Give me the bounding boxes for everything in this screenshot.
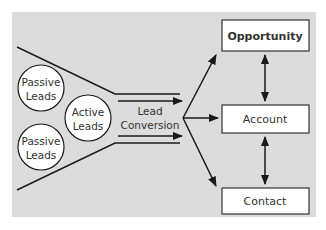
lead-node-active: Active Leads [65, 95, 111, 141]
entity-account: Account [222, 105, 309, 133]
lead-label-line2: Leads [26, 90, 57, 102]
lead-conversion-diagram: Passive Leads Passive Leads Active Leads… [0, 0, 326, 230]
lead-label-line2: Leads [26, 149, 57, 161]
conversion-label-line2: Conversion [121, 119, 180, 131]
lead-node-passive-top: Passive Leads [18, 65, 64, 111]
lead-label-line2: Leads [73, 120, 104, 132]
diagram-canvas: Passive Leads Passive Leads Active Leads… [0, 0, 326, 230]
entity-label: Account [243, 113, 288, 126]
entity-label: Opportunity [227, 30, 302, 43]
arrow-to-opportunity [183, 55, 216, 118]
entity-label: Contact [244, 195, 287, 208]
entity-contact: Contact [222, 188, 309, 214]
lead-label-line1: Passive [22, 76, 61, 88]
arrow-to-contact [183, 118, 216, 186]
conversion-label-line1: Lead [137, 105, 162, 117]
entity-opportunity: Opportunity [222, 20, 309, 51]
lead-label-line1: Active [72, 106, 104, 118]
lead-node-passive-bottom: Passive Leads [18, 124, 64, 170]
lead-label-line1: Passive [22, 135, 61, 147]
